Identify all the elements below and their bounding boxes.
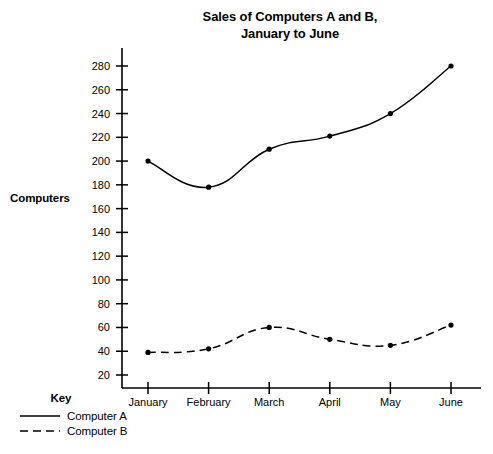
y-tick-label: 80	[98, 298, 110, 310]
legend-label-computer-a: Computer A	[67, 410, 127, 422]
y-tick-label: 180	[92, 179, 110, 191]
data-point-marker	[327, 337, 332, 342]
x-tick-label: June	[439, 396, 463, 408]
series-line-computer-b	[148, 325, 451, 352]
legend-swatch-dashed-line	[18, 426, 62, 436]
legend-item-computer-b: Computer B	[18, 423, 148, 438]
y-tick-label: 140	[92, 226, 110, 238]
data-point-marker	[267, 147, 272, 152]
y-tick-label: 280	[92, 60, 110, 72]
data-point-marker	[206, 185, 211, 190]
data-point-marker	[448, 63, 453, 68]
y-tick-label: 220	[92, 131, 110, 143]
y-tick-label: 20	[98, 369, 110, 381]
data-point-marker	[267, 325, 272, 330]
y-tick-label: 60	[98, 321, 110, 333]
y-tick-label: 200	[92, 155, 110, 167]
plot-area: 20406080100120140160180200220240260280 J…	[0, 0, 493, 454]
data-point-marker	[448, 322, 453, 327]
series-line-computer-a	[148, 66, 451, 187]
y-tick-label: 260	[92, 84, 110, 96]
y-tick-label: 120	[92, 250, 110, 262]
x-axis-ticks: JanuaryFebruaryMarchAprilMayJune	[128, 382, 463, 408]
data-point-marker	[388, 111, 393, 116]
y-tick-label: 160	[92, 203, 110, 215]
data-point-marker	[145, 350, 150, 355]
y-tick-label: 40	[98, 345, 110, 357]
data-points-group	[145, 63, 453, 355]
data-point-marker	[145, 158, 150, 163]
x-tick-label: February	[187, 396, 232, 408]
legend-title: Key	[32, 392, 90, 404]
x-tick-label: March	[254, 396, 285, 408]
y-tick-label: 100	[92, 274, 110, 286]
legend-label-computer-b: Computer B	[67, 425, 127, 437]
legend-key: Key Computer A Computer B	[18, 392, 148, 438]
x-tick-label: April	[319, 396, 341, 408]
y-tick-label: 240	[92, 108, 110, 120]
x-tick-label: May	[380, 396, 401, 408]
legend-item-computer-a: Computer A	[18, 408, 148, 423]
data-point-marker	[388, 343, 393, 348]
data-point-marker	[206, 346, 211, 351]
data-series-group	[148, 66, 451, 352]
line-chart: Sales of Computers A and B, January to J…	[0, 0, 493, 454]
legend-swatch-solid-line	[18, 411, 62, 421]
data-point-marker	[327, 134, 332, 139]
